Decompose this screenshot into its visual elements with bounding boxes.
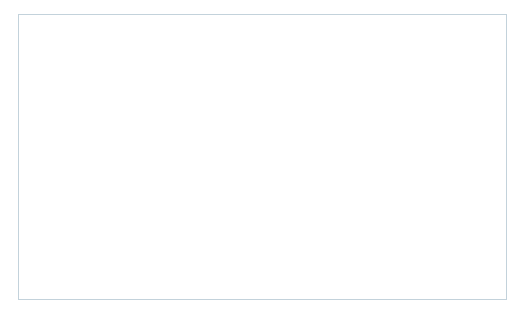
chart-frame-border [18,14,507,300]
chart-container: Volume 050,000,000100,000,000150,000,000… [0,0,525,317]
